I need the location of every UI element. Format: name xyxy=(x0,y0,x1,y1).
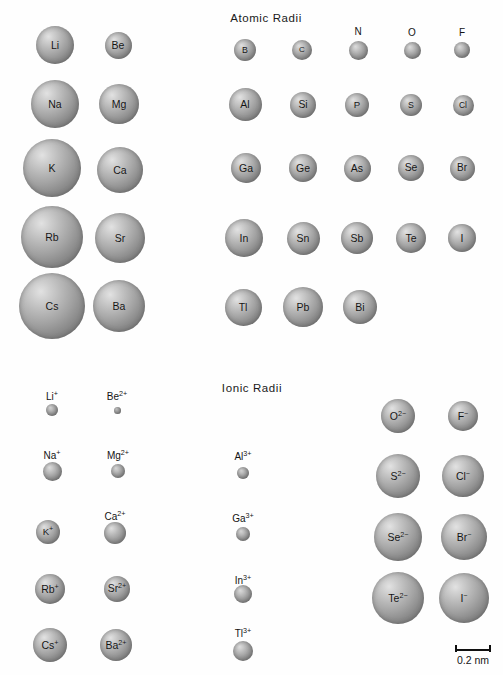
sphere-ba: Ba xyxy=(93,280,145,332)
sphere-n xyxy=(349,41,368,60)
sphere-ge: Ge xyxy=(289,154,317,182)
scale-bar-cap-right xyxy=(489,645,491,652)
label-i: I xyxy=(461,233,464,244)
label-as: As xyxy=(351,163,363,174)
sphere-cl-ion: Cl− xyxy=(442,455,484,497)
sphere-tl-ion xyxy=(233,641,253,661)
sphere-mg-ion xyxy=(111,464,125,478)
scale-bar-line xyxy=(455,649,491,651)
label-b: B xyxy=(242,46,248,55)
sphere-be-ion xyxy=(114,407,121,414)
sphere-rb-ion: Rb+ xyxy=(35,574,65,604)
label-f-ion: F− xyxy=(458,411,469,422)
label-be-ion: Be2+ xyxy=(107,392,127,402)
label-ga-ion: Ga3+ xyxy=(232,514,254,524)
label-sn: Sn xyxy=(297,233,310,244)
sphere-be: Be xyxy=(105,32,132,59)
label-br: Br xyxy=(457,163,467,173)
atomic-radii-title: Atomic Radii xyxy=(230,12,302,24)
sphere-f-ion: F− xyxy=(448,401,478,431)
sphere-br: Br xyxy=(450,156,475,181)
label-in: In xyxy=(240,233,249,244)
sphere-sr: Sr xyxy=(95,213,145,263)
label-bi: Bi xyxy=(355,302,364,313)
label-cl-ion: Cl− xyxy=(456,471,470,482)
sphere-bi: Bi xyxy=(343,290,377,324)
label-rb: Rb xyxy=(45,232,58,243)
sphere-s-ion: S2− xyxy=(376,454,420,498)
label-k: K xyxy=(48,163,55,174)
label-ca-ion: Ca2+ xyxy=(105,512,126,522)
sphere-s: S xyxy=(400,94,422,116)
label-cs-ion: Cs+ xyxy=(41,640,58,651)
label-al: Al xyxy=(240,99,249,110)
label-ga: Ga xyxy=(239,163,253,174)
sphere-tl: Tl xyxy=(225,289,262,326)
label-te: Te xyxy=(405,233,416,244)
label-se-ion: Se2− xyxy=(387,532,408,543)
label-ge: Ge xyxy=(296,163,310,174)
sphere-f xyxy=(454,42,470,58)
sphere-c: C xyxy=(292,40,312,60)
sphere-sn: Sn xyxy=(287,222,320,255)
label-se: Se xyxy=(405,163,418,173)
sphere-ga-ion xyxy=(236,527,250,541)
label-ba: Ba xyxy=(113,301,126,312)
label-sr: Sr xyxy=(115,233,126,244)
sphere-ca-ion xyxy=(104,522,126,544)
label-s: S xyxy=(408,101,414,110)
label-br-ion: Br− xyxy=(457,532,472,543)
label-li-ion: Li+ xyxy=(46,392,58,402)
sphere-ba-ion: Ba2+ xyxy=(100,629,132,661)
label-f: F xyxy=(459,28,465,38)
sphere-ga: Ga xyxy=(231,153,261,183)
label-ba-ion: Ba2+ xyxy=(105,640,126,651)
label-i-ion: I− xyxy=(460,593,467,604)
sphere-cl: Cl xyxy=(453,95,474,116)
label-cs: Cs xyxy=(46,301,59,312)
sphere-ca: Ca xyxy=(97,147,143,193)
label-n: N xyxy=(354,27,361,37)
sphere-al: Al xyxy=(229,88,262,121)
ionic-radii-title: Ionic Radii xyxy=(222,382,282,394)
label-si: Si xyxy=(298,100,307,110)
label-tl: Tl xyxy=(239,302,248,313)
label-mg-ion: Mg2+ xyxy=(107,451,129,461)
label-cl: Cl xyxy=(459,101,467,109)
sphere-in-ion xyxy=(234,585,252,603)
sphere-sr-ion: Sr2+ xyxy=(104,576,130,602)
sphere-li: Li xyxy=(36,26,74,64)
label-sr-ion: Sr2+ xyxy=(108,584,127,594)
radii-figure: Atomic Radii Ionic Radii LiBeBCNOFNaMgAl… xyxy=(0,0,503,675)
sphere-br-ion: Br− xyxy=(441,514,487,560)
sphere-o-ion: O2− xyxy=(381,399,415,433)
label-o: O xyxy=(408,28,416,38)
label-k-ion: K+ xyxy=(43,527,54,537)
sphere-cs: Cs xyxy=(19,273,85,339)
label-ca: Ca xyxy=(113,165,126,176)
sphere-pb: Pb xyxy=(283,287,323,327)
sphere-te: Te xyxy=(396,223,426,253)
sphere-p: P xyxy=(345,93,369,117)
sphere-al-ion xyxy=(237,467,249,479)
label-na-ion: Na+ xyxy=(44,451,61,461)
sphere-k: K xyxy=(23,139,81,197)
label-o-ion: O2− xyxy=(390,411,406,422)
sphere-te-ion: Te2− xyxy=(372,572,424,624)
label-pb: Pb xyxy=(297,302,310,313)
label-na: Na xyxy=(48,99,61,110)
label-c: C xyxy=(299,46,305,54)
sphere-o xyxy=(404,42,421,59)
sphere-na-ion xyxy=(43,462,62,481)
sphere-se: Se xyxy=(398,155,424,181)
sphere-na: Na xyxy=(31,80,79,128)
sphere-cs-ion: Cs+ xyxy=(33,628,67,662)
label-be: Be xyxy=(112,40,125,51)
sphere-in: In xyxy=(225,219,263,257)
sphere-k-ion: K+ xyxy=(36,520,60,544)
label-te-ion: Te2− xyxy=(388,593,407,604)
sphere-li-ion xyxy=(46,404,58,416)
sphere-i-ion: I− xyxy=(439,573,489,623)
label-mg: Mg xyxy=(112,99,127,110)
sphere-se-ion: Se2− xyxy=(374,513,422,561)
